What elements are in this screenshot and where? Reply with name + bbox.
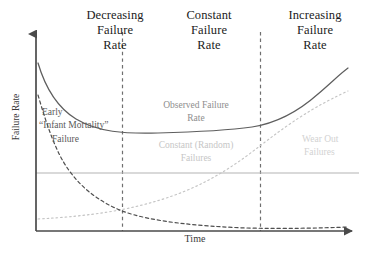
phase-increasing-line3: Rate <box>262 38 368 53</box>
annot-observed-line1: Observed Failure <box>148 99 244 112</box>
annot-wearout-line2: Failures <box>304 146 368 159</box>
annot-constant-line2: Failures <box>142 152 250 165</box>
phase-title-increasing-failure-rate: Increasing Failure Rate <box>262 8 368 52</box>
phase-constant-line3: Rate <box>154 38 264 53</box>
phase-title-constant-failure-rate: Constant Failure Rate <box>154 8 264 52</box>
annot-early-line3: Failure <box>52 133 132 146</box>
annot-constant-line1: Constant (Random) <box>142 139 250 152</box>
phase-constant-line1: Constant <box>154 8 264 23</box>
annot-wearout-line1: Wear Out <box>302 133 368 146</box>
annotation-observed-failure-rate: Observed Failure Rate <box>148 99 244 126</box>
x-axis-label: Time <box>150 233 240 245</box>
annotation-early-infant-mortality-failure: Early “Infant Mortality” Failure <box>38 106 132 146</box>
phase-increasing-line2: Failure <box>262 23 368 38</box>
y-axis-label: Failure Rate <box>11 85 21 149</box>
bathtub-curve-figure: Decreasing Failure Rate Constant Failure… <box>0 0 374 254</box>
annot-early-line1: Early <box>42 106 132 119</box>
phase-constant-line2: Failure <box>154 23 264 38</box>
annot-early-line2: “Infant Mortality” <box>39 119 132 132</box>
phase-increasing-line1: Increasing <box>262 8 368 23</box>
annotation-constant-random-failures: Constant (Random) Failures <box>142 139 250 166</box>
annotation-wear-out-failures: Wear Out Failures <box>302 133 368 160</box>
annot-observed-line2: Rate <box>148 112 244 125</box>
